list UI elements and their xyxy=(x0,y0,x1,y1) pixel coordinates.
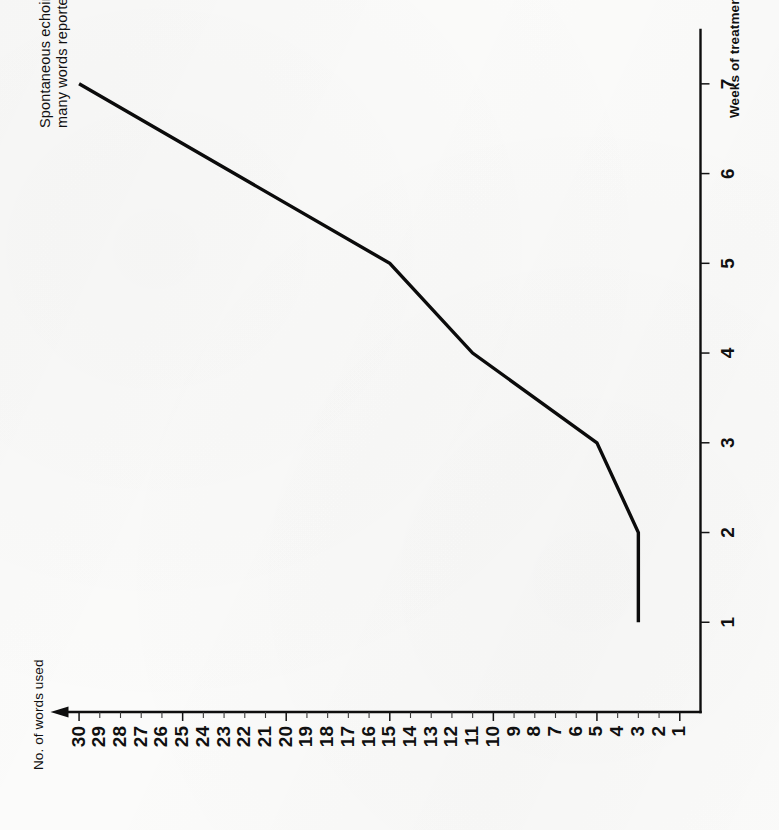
y-axis-tick-label: 4 xyxy=(605,726,627,760)
y-axis-tick-label: 19 xyxy=(294,726,316,760)
y-axis-tick-label: 24 xyxy=(191,726,213,760)
y-axis-tick-label: 1 xyxy=(667,726,689,760)
y-axis-title: No. of words used xyxy=(30,659,46,770)
y-axis-tick-label: 23 xyxy=(212,726,234,760)
y-axis-tick-label: 3 xyxy=(626,726,648,760)
y-axis-tick-label: 21 xyxy=(253,726,275,760)
y-axis-tick-label: 20 xyxy=(274,726,296,760)
y-axis-tick-label: 26 xyxy=(149,726,171,760)
y-axis-tick-label: 11 xyxy=(460,726,482,760)
y-axis-tick-label: 28 xyxy=(108,726,130,760)
y-axis-tick-label: 13 xyxy=(419,726,441,760)
y-axis-tick-label: 10 xyxy=(481,726,503,760)
y-axis-ticks xyxy=(79,712,680,721)
y-axis-tick-label: 12 xyxy=(439,726,461,760)
y-axis-tick-label: 16 xyxy=(357,726,379,760)
y-axis-tick-label: 8 xyxy=(522,726,544,760)
y-axis-tick-label: 29 xyxy=(87,726,109,760)
line-chart: 1234567891011121314151617181920212223242… xyxy=(0,0,779,830)
y-axis-tick-label: 2 xyxy=(647,726,669,760)
y-axis-tick-label: 30 xyxy=(67,726,89,760)
y-axis-tick-label: 25 xyxy=(170,726,192,760)
y-axis-tick-label: 7 xyxy=(543,726,565,760)
y-axis-tick-label: 6 xyxy=(564,726,586,760)
y-axis-tick-label: 15 xyxy=(377,726,399,760)
y-axis-tick-label: 9 xyxy=(502,726,524,760)
scanned-figure-page: 1234567891011121314151617181920212223242… xyxy=(0,0,779,830)
x-axis-tick-label: 3 xyxy=(716,428,738,458)
x-axis-tick-label: 5 xyxy=(716,248,738,278)
chart-canvas xyxy=(0,0,779,830)
y-axis-tick-label: 18 xyxy=(315,726,337,760)
y-axis-arrowhead xyxy=(50,707,68,718)
series-annotation: Spontaneous echoing of many words report… xyxy=(36,0,70,128)
x-axis-tick-label: 2 xyxy=(716,518,738,548)
annotation-line-2: many words reported xyxy=(53,0,70,128)
x-axis-tick-label: 4 xyxy=(716,338,738,368)
y-axis-tick-label: 27 xyxy=(129,726,151,760)
x-axis-tick-label: 6 xyxy=(716,159,738,189)
axes-group xyxy=(50,30,700,718)
y-axis-tick-label: 5 xyxy=(584,726,606,760)
y-axis-tick-label: 22 xyxy=(232,726,254,760)
data-series-line xyxy=(79,84,638,622)
x-axis-title: Weeks of treatment xyxy=(726,0,742,118)
annotation-line-1: Spontaneous echoing of xyxy=(36,0,53,128)
y-axis-tick-label: 14 xyxy=(398,726,420,760)
x-axis-tick-label: 1 xyxy=(716,607,738,637)
y-axis-tick-label: 17 xyxy=(336,726,358,760)
rotated-figure-stage: 1234567891011121314151617181920212223242… xyxy=(0,0,779,830)
